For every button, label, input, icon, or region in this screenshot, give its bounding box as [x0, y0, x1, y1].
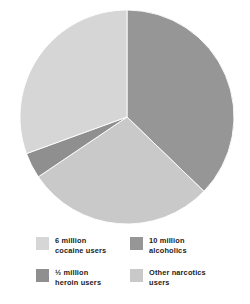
legend-label-heroin: ½ million heroin users — [55, 268, 101, 287]
legend-label-alcoholics: 10 million alcoholics — [149, 236, 187, 255]
pie-chart-svg — [0, 0, 250, 232]
pie-chart-plot-area — [0, 0, 250, 232]
pie-chart-figure: 6 million cocaine users 10 million alcoh… — [0, 0, 250, 304]
legend-swatch-cocaine — [36, 237, 49, 250]
chart-legend: 6 million cocaine users 10 million alcoh… — [36, 236, 242, 300]
pie-slice-group — [20, 10, 234, 224]
legend-swatch-heroin — [36, 269, 49, 282]
legend-label-other-narcotics: Other narcotics users — [149, 268, 206, 287]
legend-item-other-narcotics[interactable]: Other narcotics users — [130, 268, 242, 300]
legend-item-alcoholics[interactable]: 10 million alcoholics — [130, 236, 242, 268]
legend-item-heroin[interactable]: ½ million heroin users — [36, 268, 130, 300]
legend-item-cocaine[interactable]: 6 million cocaine users — [36, 236, 130, 268]
legend-label-cocaine: 6 million cocaine users — [55, 236, 106, 255]
legend-swatch-other-narcotics — [130, 269, 143, 282]
legend-swatch-alcoholics — [130, 237, 143, 250]
